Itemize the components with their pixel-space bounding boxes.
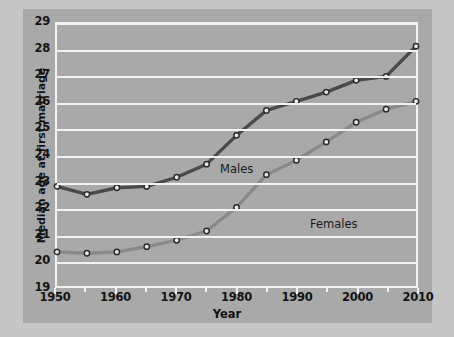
data-point-males-1985 [264, 108, 269, 113]
data-point-females-1965 [144, 244, 149, 249]
x-tick-mark [296, 288, 298, 294]
gridline [57, 23, 416, 25]
y-axis-title: Median age at first marriage [35, 51, 48, 261]
x-tick-mark-minor [84, 288, 86, 292]
x-tick-mark [175, 288, 177, 294]
series-label-males: Males [220, 162, 253, 176]
data-point-females-1995 [324, 139, 329, 144]
data-point-females-1990 [294, 158, 299, 163]
x-tick-mark-minor [326, 288, 328, 292]
gridline [57, 236, 416, 238]
gridline [57, 103, 416, 105]
y-tick-label: 29 [34, 16, 50, 28]
gridline [57, 209, 416, 211]
chart-figure: 1920212223242526272829 Median age at fir… [0, 0, 454, 337]
data-point-females-1960 [114, 249, 119, 254]
x-tick-mark [54, 288, 56, 294]
data-point-females-1950 [54, 249, 59, 254]
data-point-males-1960 [114, 185, 119, 190]
x-tick-mark [417, 288, 419, 294]
data-point-males-1975 [204, 162, 209, 167]
x-tick-mark [357, 288, 359, 294]
series-label-females: Females [310, 217, 358, 231]
data-point-males-1995 [324, 89, 329, 94]
data-point-females-2000 [353, 120, 358, 125]
x-tick-mark-minor [145, 288, 147, 292]
x-tick-mark [115, 288, 117, 294]
x-axis-title: Year [0, 307, 454, 321]
gridline [57, 76, 416, 78]
data-point-males-1955 [84, 192, 89, 197]
data-point-females-1985 [264, 172, 269, 177]
gridline [57, 129, 416, 131]
x-tick-mark-minor [205, 288, 207, 292]
gridline [57, 262, 416, 264]
data-point-males-2000 [353, 78, 358, 83]
data-point-males-1970 [174, 175, 179, 180]
gridline [57, 156, 416, 158]
data-point-females-1975 [204, 228, 209, 233]
data-point-females-2005 [383, 106, 388, 111]
x-tick-mark-minor [387, 288, 389, 292]
x-tick-mark [236, 288, 238, 294]
data-point-females-1955 [84, 251, 89, 256]
gridline [57, 50, 416, 52]
series-layer [57, 24, 416, 286]
plot-area: Males Females [55, 22, 418, 288]
series-line-females [57, 101, 416, 253]
data-point-females-1970 [174, 237, 179, 242]
x-tick-mark-minor [266, 288, 268, 292]
gridline [57, 183, 416, 185]
data-point-males-1980 [234, 133, 239, 138]
data-point-males-2010 [413, 44, 418, 49]
